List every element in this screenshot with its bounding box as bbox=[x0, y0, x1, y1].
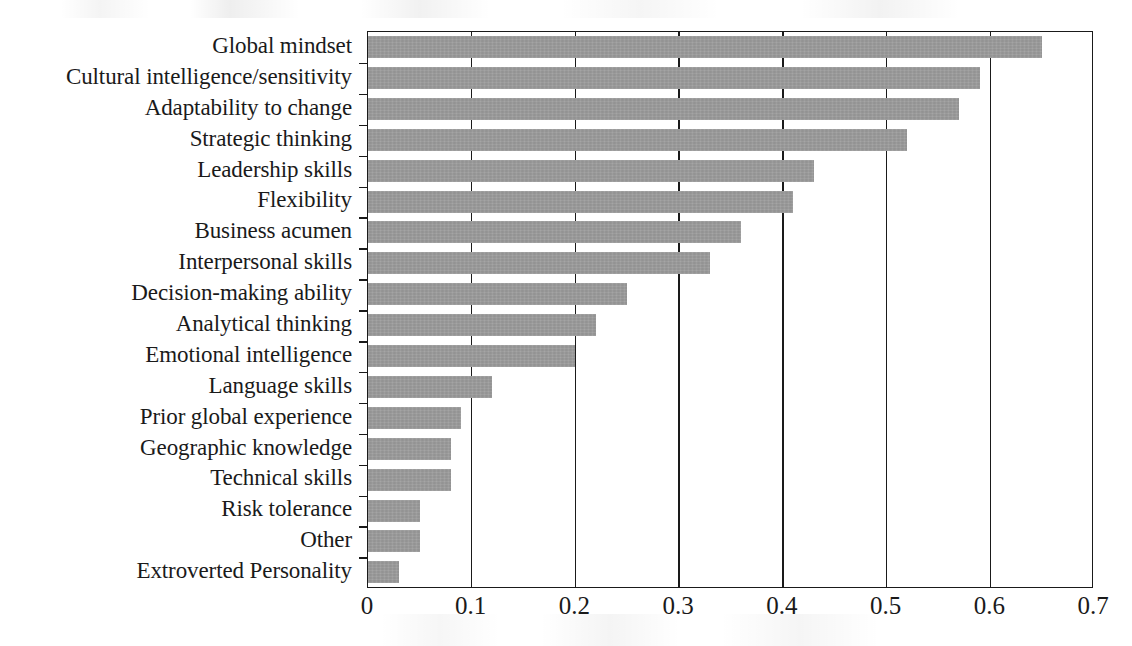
bar-row bbox=[368, 217, 1094, 248]
bar-row bbox=[368, 248, 1094, 279]
bar bbox=[368, 561, 399, 583]
bar bbox=[368, 221, 741, 243]
bar bbox=[368, 438, 451, 460]
category-label: Flexibility bbox=[0, 185, 360, 216]
bar bbox=[368, 345, 575, 367]
y-axis-tick bbox=[359, 217, 368, 219]
category-label: Interpersonal skills bbox=[0, 247, 360, 278]
bar bbox=[368, 191, 793, 213]
x-axis-tick-label: 0.1 bbox=[455, 592, 486, 620]
y-axis-tick bbox=[359, 496, 368, 498]
bar-row bbox=[368, 94, 1094, 125]
bar-row bbox=[368, 434, 1094, 465]
horizontal-bar-chart: Global mindsetCultural intelligence/sens… bbox=[0, 0, 1132, 646]
bar bbox=[368, 407, 461, 429]
category-label: Leadership skills bbox=[0, 155, 360, 186]
bar bbox=[368, 252, 710, 274]
y-axis-tick bbox=[359, 341, 368, 343]
y-axis-tick bbox=[359, 526, 368, 528]
category-label: Risk tolerance bbox=[0, 494, 360, 525]
bar-row bbox=[368, 279, 1094, 310]
bar bbox=[368, 376, 492, 398]
category-label: Language skills bbox=[0, 371, 360, 402]
bar-row bbox=[368, 526, 1094, 557]
y-axis-tick bbox=[359, 434, 368, 436]
y-axis-category-labels: Global mindsetCultural intelligence/sens… bbox=[0, 31, 360, 587]
y-axis-tick bbox=[359, 465, 368, 467]
bar bbox=[368, 283, 627, 305]
category-label: Adaptability to change bbox=[0, 93, 360, 124]
x-axis-tick-label: 0.5 bbox=[870, 592, 901, 620]
y-axis-tick bbox=[359, 248, 368, 250]
y-axis-tick bbox=[359, 557, 368, 559]
x-axis-tick-label: 0.4 bbox=[766, 592, 797, 620]
y-axis-tick bbox=[359, 372, 368, 374]
category-label: Analytical thinking bbox=[0, 309, 360, 340]
bar-row bbox=[368, 341, 1094, 372]
y-axis-tick bbox=[359, 403, 368, 405]
y-axis-tick bbox=[359, 63, 368, 65]
category-label: Emotional intelligence bbox=[0, 340, 360, 371]
bar-row bbox=[368, 187, 1094, 218]
category-label: Prior global experience bbox=[0, 402, 360, 433]
category-label: Other bbox=[0, 525, 360, 556]
bar-row bbox=[368, 156, 1094, 187]
bar bbox=[368, 500, 420, 522]
bar bbox=[368, 36, 1042, 58]
plot-area bbox=[367, 31, 1093, 588]
y-axis-tick bbox=[359, 125, 368, 127]
x-axis-tick-label: 0.3 bbox=[663, 592, 694, 620]
category-label: Extroverted Personality bbox=[0, 556, 360, 587]
category-label: Cultural intelligence/sensitivity bbox=[0, 62, 360, 93]
x-axis-tick-labels: 00.10.20.30.40.50.60.7 bbox=[0, 592, 1132, 626]
y-axis-tick bbox=[359, 310, 368, 312]
x-axis-tick-label: 0.2 bbox=[559, 592, 590, 620]
bar-row bbox=[368, 310, 1094, 341]
bar-row bbox=[368, 496, 1094, 527]
bar bbox=[368, 67, 980, 89]
bar bbox=[368, 129, 907, 151]
bar-row bbox=[368, 465, 1094, 496]
x-axis-tick-label: 0.7 bbox=[1077, 592, 1108, 620]
y-axis-tick bbox=[359, 156, 368, 158]
y-axis-tick bbox=[359, 279, 368, 281]
category-label: Business acumen bbox=[0, 216, 360, 247]
bar bbox=[368, 98, 959, 120]
y-axis-tick bbox=[359, 94, 368, 96]
category-label: Technical skills bbox=[0, 463, 360, 494]
category-label: Geographic knowledge bbox=[0, 433, 360, 464]
bar bbox=[368, 530, 420, 552]
bar bbox=[368, 160, 814, 182]
bar-row bbox=[368, 125, 1094, 156]
x-axis-tick-label: 0 bbox=[361, 592, 374, 620]
bar bbox=[368, 314, 596, 336]
y-axis-tick bbox=[359, 187, 368, 189]
bar-row bbox=[368, 403, 1094, 434]
bar bbox=[368, 469, 451, 491]
category-label: Decision-making ability bbox=[0, 278, 360, 309]
bar-row bbox=[368, 32, 1094, 63]
x-axis-tick-label: 0.6 bbox=[974, 592, 1005, 620]
bar-row bbox=[368, 557, 1094, 588]
bar-row bbox=[368, 63, 1094, 94]
category-label: Global mindset bbox=[0, 31, 360, 62]
bar-row bbox=[368, 372, 1094, 403]
category-label: Strategic thinking bbox=[0, 124, 360, 155]
